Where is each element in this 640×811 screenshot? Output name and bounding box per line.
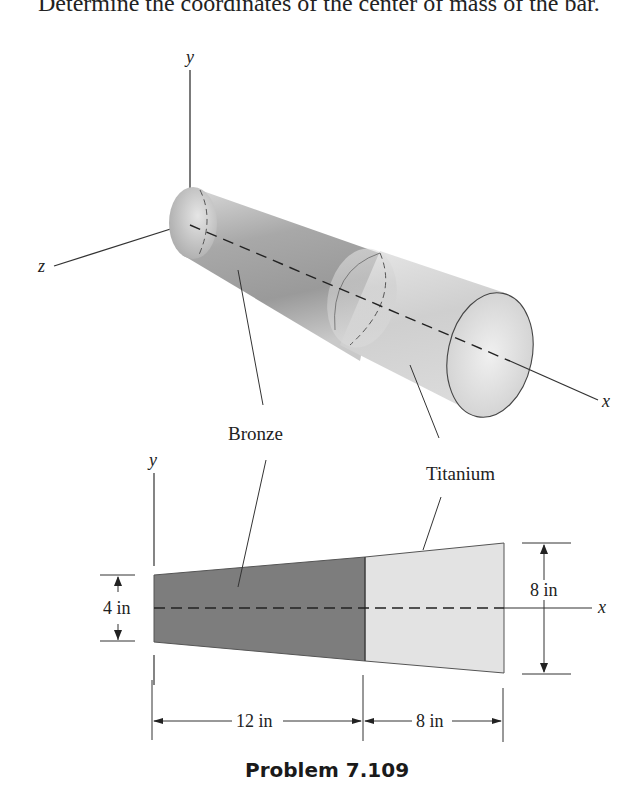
titanium-leader-2d [423,497,441,550]
bronze-section [154,557,365,661]
dimension-lengths: 12 in 8 in [152,675,503,742]
side-view: y x 4 in [100,450,606,742]
x-axis-label-2d: x [597,597,606,617]
figure: y z x Bronze Titanium y [0,0,640,811]
z-axis-3d [54,226,180,266]
right-diameter-label: 8 in [530,580,558,600]
titanium-label: Titanium [426,463,495,484]
y-axis-label-3d: y [184,47,194,67]
left-diameter-label: 4 in [103,598,131,618]
isometric-view: y z x [37,47,610,438]
dimension-left-diameter: 4 in [100,575,135,641]
bronze-length-label: 12 in [236,711,273,731]
z-axis-label-3d: z [37,256,45,276]
figure-caption: Problem 7.109 [245,758,409,782]
bronze-left-cap [169,187,217,259]
y-axis-label-2d: y [147,450,157,470]
titanium-length-label: 8 in [416,711,444,731]
bronze-label: Bronze [228,423,283,444]
x-axis-label-3d: x [601,391,610,411]
